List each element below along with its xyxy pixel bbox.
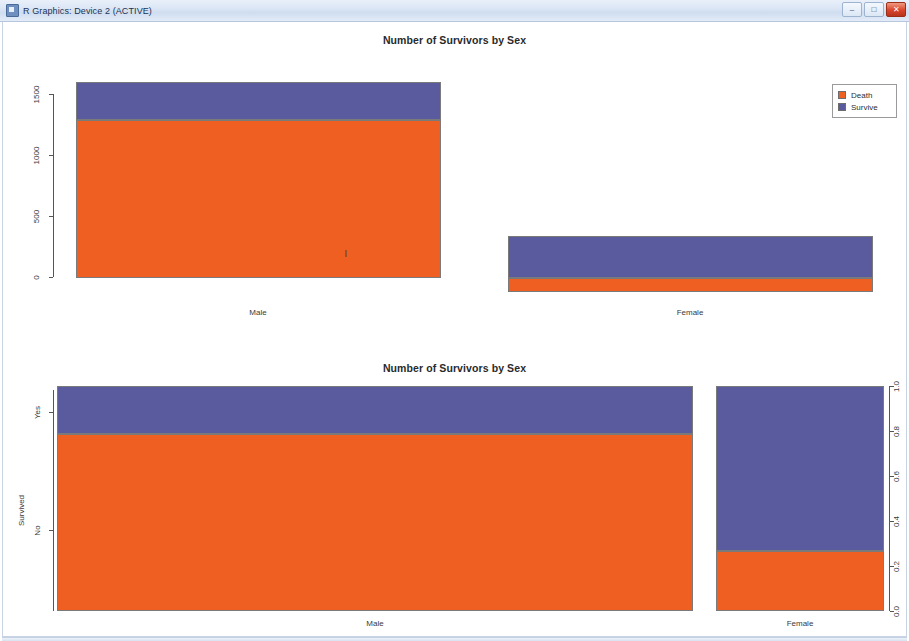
legend-label-survive: Survive [851, 103, 878, 112]
top-chart-ytick-label-1500: 1500 [32, 84, 41, 106]
top-chart-ytick-1000 [49, 155, 53, 156]
bottom-chart-yrtick-label-0.4: 0.4 [892, 511, 901, 533]
bottom-chart-y-axis-title: Survived [17, 481, 26, 541]
maximize-button[interactable]: □ [864, 2, 884, 17]
top-chart-bar-female-death[interactable] [508, 278, 873, 292]
bottom-chart-y-axis-right [889, 386, 890, 611]
top-chart-bar-female-survive[interactable] [508, 236, 873, 278]
top-chart-ytick-label-500: 500 [32, 208, 41, 226]
legend-label-death: Death [851, 91, 872, 100]
window-controls: – □ ✕ [842, 2, 906, 17]
horizontal-scrollbar[interactable] [2, 637, 907, 641]
bottom-chart-yrtick-label-0.2: 0.2 [892, 556, 901, 578]
bottom-chart-xtick-label-male: Male [325, 619, 425, 628]
close-button[interactable]: ✕ [886, 2, 906, 17]
bottom-chart-yrtick-label-0.6: 0.6 [892, 466, 901, 488]
bottom-chart-yrtick-label-0.8: 0.8 [892, 421, 901, 443]
legend-swatch-death [838, 91, 846, 99]
bottom-chart-ytick-no [49, 530, 53, 531]
window-titlebar[interactable]: R Graphics: Device 2 (ACTIVE) – □ ✕ [0, 0, 909, 22]
top-chart-ytick-label-0: 0 [32, 271, 41, 285]
minimize-button[interactable]: – [842, 2, 862, 17]
bottom-chart-xtick-label-female: Female [750, 619, 850, 628]
bottom-chart-ytick-label-yes: Yes [33, 405, 42, 421]
top-chart-xtick-label-male: Male [208, 308, 308, 317]
r-graphics-window: R Graphics: Device 2 (ACTIVE) – □ ✕ Numb… [0, 0, 909, 641]
top-chart-bar-male-survive[interactable] [76, 82, 441, 120]
r-graphics-icon [6, 4, 19, 17]
bottom-chart-title: Number of Survivors by Sex [3, 362, 906, 374]
maximize-icon: □ [865, 3, 883, 16]
graphics-client-area: Number of Survivors by Sex 1500 1000 500… [2, 22, 907, 637]
top-chart-bar-male-death[interactable] [76, 120, 441, 278]
top-chart-y-axis [53, 94, 54, 277]
bottom-chart-mosaic-female-survive[interactable] [716, 386, 884, 551]
legend-item-survive: Survive [838, 101, 889, 113]
bottom-chart-mosaic-male-death[interactable] [57, 434, 693, 611]
titlebar-left: R Graphics: Device 2 (ACTIVE) [6, 4, 152, 17]
legend-swatch-survive [838, 103, 846, 111]
bottom-chart-panel: Number of Survivors by Sex Yes No Surviv… [3, 322, 906, 637]
bottom-chart-ytick-label-no: No [33, 524, 42, 538]
bottom-chart-y-axis-left [53, 390, 54, 611]
bottom-chart-yrtick-label-1.0: 1.0 [892, 376, 901, 398]
top-chart-panel: Number of Survivors by Sex 1500 1000 500… [3, 22, 906, 322]
top-chart-legend: Death Survive [832, 84, 897, 118]
top-chart-xtick-label-female: Female [640, 308, 740, 317]
top-chart-ytick-500 [49, 216, 53, 217]
legend-item-death: Death [838, 89, 889, 101]
window-title: R Graphics: Device 2 (ACTIVE) [23, 6, 152, 16]
top-chart-ytick-0 [49, 277, 53, 278]
bottom-chart-ytick-yes [49, 412, 53, 413]
bottom-chart-yrtick-label-0.0: 0.0 [892, 601, 901, 623]
close-icon: ✕ [887, 3, 905, 16]
top-chart-title: Number of Survivors by Sex [3, 34, 906, 46]
scan-speck [345, 250, 347, 257]
bottom-chart-mosaic-male-survive[interactable] [57, 386, 693, 434]
bottom-chart-mosaic-female-death[interactable] [716, 551, 884, 611]
minimize-icon: – [843, 3, 861, 16]
top-chart-ytick-1500 [49, 94, 53, 95]
top-chart-ytick-label-1000: 1000 [32, 145, 41, 167]
